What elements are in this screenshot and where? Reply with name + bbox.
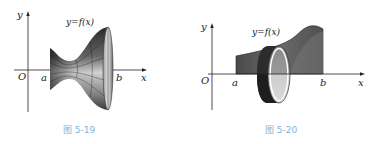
disc-face: [268, 46, 290, 103]
y-axis-arrow-icon: [210, 23, 213, 28]
figure-5-20: y O a b x y=f(x) 图 5-20: [190, 0, 377, 144]
figure-caption: 图 5-19: [63, 126, 95, 135]
a-label: a: [232, 78, 238, 88]
x-axis-arrow-icon: [360, 72, 365, 75]
solid-of-revolution-graphic: [0, 0, 190, 144]
y-axis-arrow-icon: [26, 11, 29, 16]
b-label: b: [320, 78, 326, 88]
x-axis-label: x: [141, 73, 147, 83]
figure-caption: 图 5-20: [265, 126, 297, 135]
y-axis-label: y: [201, 22, 207, 32]
y-axis-label: y: [17, 10, 23, 20]
x-axis-label: x: [358, 78, 364, 88]
figure-5-19: y O a b x y=f(x) 图 5-19: [0, 0, 190, 144]
origin-label: O: [18, 72, 26, 82]
b-label: b: [116, 73, 122, 83]
curve-label: y=f(x): [66, 18, 94, 27]
disc-slice-graphic: [190, 0, 377, 144]
origin-label: O: [201, 76, 209, 86]
a-label: a: [41, 73, 47, 83]
curve-label: y=f(x): [252, 28, 280, 37]
